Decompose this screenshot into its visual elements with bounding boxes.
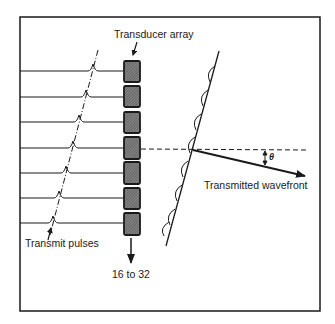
diagram-svg [0,0,335,324]
transducer-array-pointer [133,42,137,55]
diagram-canvas: Transducer array Transmit pulses 16 to 3… [0,0,335,324]
angle-indicator [263,151,267,165]
figure-border [20,17,320,311]
signal-lines [20,64,123,223]
wavelets [162,66,215,236]
wavefront-line [166,51,219,246]
transducer-element [124,112,140,133]
transmitted-wavefront-label: Transmitted wavefront [204,179,307,191]
transducer-element [124,137,140,159]
transducer-array-label: Transducer array [114,28,194,40]
transducer-element [124,61,140,82]
transducer-element [124,188,140,209]
beam-direction-arrow [193,150,305,176]
transducer-element [124,86,140,107]
array-axis-dashed [141,149,306,150]
transmit-pulses-label: Transmit pulses [25,237,99,249]
transducer-array [124,61,140,235]
delay-profile-line [50,50,98,235]
transducer-element [124,213,140,235]
angle-theta-label: θ [269,152,274,162]
transducer-element [124,162,140,184]
element-count-label: 16 to 32 [112,268,150,280]
